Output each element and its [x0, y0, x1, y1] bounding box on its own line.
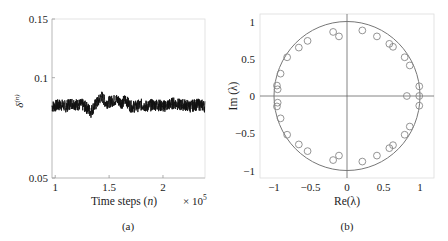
- eigenvalue-marker: [330, 29, 337, 36]
- y-tick-label: 0: [250, 90, 256, 102]
- eigenvalue-marker: [277, 70, 284, 77]
- x-tick-label: 2: [160, 181, 166, 193]
- y-axis-label-a: δ(n): [13, 94, 25, 108]
- panel-label-a: (a): [122, 220, 135, 233]
- panel-label-b: (b): [341, 220, 354, 233]
- x-tick-label: −0.5: [301, 181, 321, 193]
- eigenvalue-marker: [359, 158, 366, 165]
- panel-b: −1−0.500.51 −1−0.500.51 Im (λ) Re(λ) (b): [224, 0, 448, 241]
- eigenvalue-marker: [330, 157, 337, 164]
- delta-series: [52, 92, 205, 118]
- y-tick-label: 1: [250, 16, 256, 28]
- zero-axes: [260, 14, 434, 178]
- eigenvalue-marker: [374, 33, 381, 40]
- eigenvalue-marker: [336, 152, 343, 159]
- eigenvalue-marker: [336, 33, 343, 40]
- x-tick-label: 1.5: [102, 181, 116, 193]
- eigenvalue-scatter-chart: −1−0.500.51 −1−0.500.51 Im (λ) Re(λ) (b): [224, 0, 448, 241]
- x-tick-label: 1: [417, 181, 423, 193]
- eigenvalue-marker: [304, 37, 311, 44]
- y-tick-label: −0.5: [235, 127, 255, 139]
- x-tick-label: 0: [344, 181, 350, 193]
- x-tick-label: 0.5: [377, 181, 391, 193]
- y-tick-label: 0.1: [34, 72, 48, 84]
- eigenvalue-marker: [295, 141, 302, 148]
- y-axis-label-b: Im (λ): [227, 81, 240, 110]
- y-tick-label: 0.5: [241, 53, 255, 65]
- y-tick-label: −1: [243, 165, 255, 177]
- x-tick-label: −1: [268, 181, 280, 193]
- time-series-chart: 0.050.10.15 11.52 δ(n) Time steps (n) × …: [0, 0, 224, 241]
- x-tick-labels-b: −1−0.500.51: [268, 181, 423, 193]
- x-axis-label-a: Time steps (n): [91, 195, 157, 208]
- eigenvalue-marker: [406, 123, 413, 130]
- eigenvalue-marker: [406, 62, 413, 69]
- y-tick-labels-a: 0.050.10.15: [29, 13, 55, 184]
- eigenvalue-marker: [374, 152, 381, 159]
- eigenvalue-marker: [359, 27, 366, 34]
- eigenvalue-marker: [304, 148, 311, 155]
- eigenvalue-marker: [401, 131, 408, 138]
- panel-a: 0.050.10.15 11.52 δ(n) Time steps (n) × …: [0, 0, 224, 241]
- eigenvalue-marker: [401, 54, 408, 61]
- y-tick-label: 0.05: [29, 172, 49, 184]
- eigenvalue-marker: [295, 44, 302, 51]
- x-multiplier: × 105: [183, 193, 207, 207]
- y-tick-label: 0.15: [29, 13, 49, 25]
- x-axis-label-b: Re(λ): [334, 195, 360, 208]
- eigenvalue-marker: [277, 115, 284, 122]
- x-tick-label: 1: [52, 181, 58, 193]
